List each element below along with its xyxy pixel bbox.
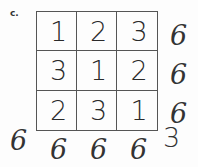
col-sum: 6 (50, 136, 67, 163)
diagonal-sum: 6 (10, 127, 27, 154)
row-sum: 6 (170, 22, 187, 49)
magic-square-grid: 1 2 3 3 1 2 2 3 1 (36, 11, 158, 131)
cell: 3 (37, 51, 77, 90)
cell: 3 (77, 91, 117, 130)
cell: 1 (117, 91, 157, 130)
cell: 1 (37, 12, 77, 51)
cell: 2 (77, 12, 117, 51)
problem-label: c. (10, 8, 19, 18)
row-sum: 6 (170, 61, 187, 88)
cell: 2 (37, 91, 77, 130)
cell: 3 (117, 12, 157, 51)
col-sum: 6 (90, 136, 107, 163)
diagonal-sum: 3 (163, 124, 180, 151)
cell: 2 (117, 51, 157, 90)
cell: 1 (77, 51, 117, 90)
col-sum: 6 (130, 136, 147, 163)
